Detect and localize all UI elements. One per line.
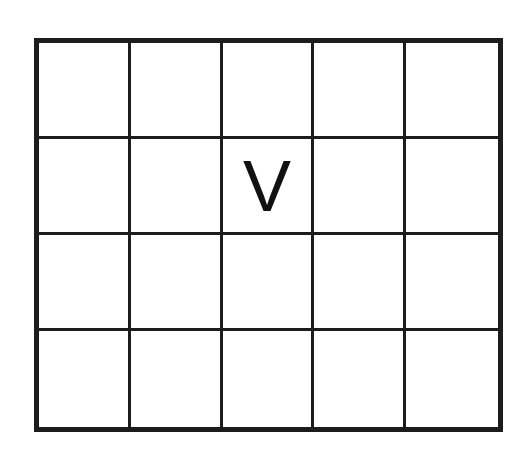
grid-cell-r3-c2: [131, 235, 223, 331]
grid-cell-r3-c1: [39, 235, 131, 331]
grid-cell-r1-c2: [131, 43, 223, 139]
grid-cell-r3-c4: [314, 235, 406, 331]
grid-cell-r4-c2: [131, 331, 223, 427]
grid-cell-r4-c4: [314, 331, 406, 427]
letter-grid: V: [34, 38, 503, 432]
grid-cell-r1-c5: [406, 43, 498, 139]
grid-cell-r2-c4: [314, 139, 406, 235]
grid-cell-r4-c1: [39, 331, 131, 427]
grid-cell-r2-c2: [131, 139, 223, 235]
grid-cell-r2-c1: [39, 139, 131, 235]
grid-cell-r1-c3: [223, 43, 315, 139]
grid-cell-r4-c5: [406, 331, 498, 427]
grid-cell-r1-c4: [314, 43, 406, 139]
grid-cell-r1-c1: [39, 43, 131, 139]
grid-cell-r2-c3: V: [223, 139, 315, 235]
grid-cell-r2-c5: [406, 139, 498, 235]
grid-cell-r3-c5: [406, 235, 498, 331]
grid-cell-r4-c3: [223, 331, 315, 427]
grid-cell-r3-c3: [223, 235, 315, 331]
